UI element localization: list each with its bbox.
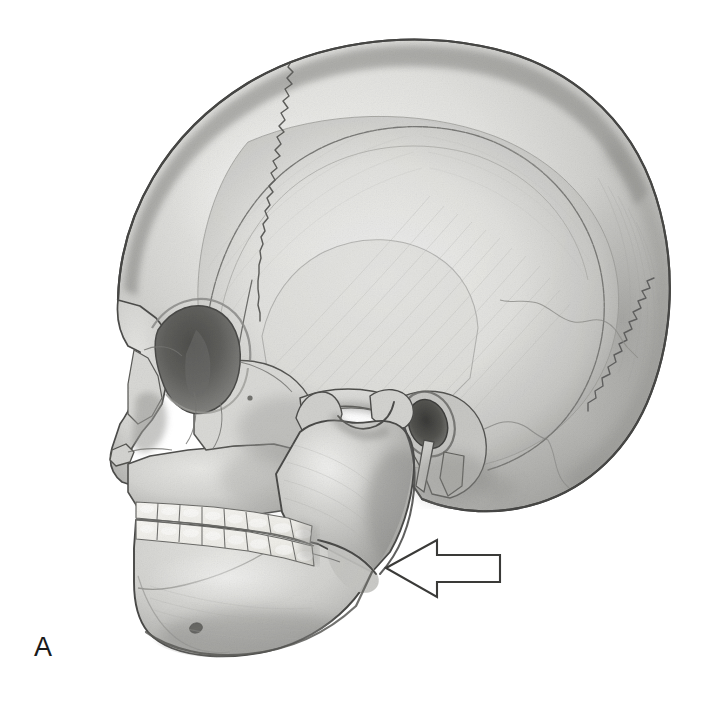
zygomaticofacial-foramen [247, 395, 252, 400]
ramus-highlight [286, 426, 374, 514]
figure-panel: A [0, 0, 707, 712]
temporal-shadow [412, 452, 492, 504]
panel-label-a: A [34, 634, 53, 661]
skull-illustration [0, 0, 707, 712]
